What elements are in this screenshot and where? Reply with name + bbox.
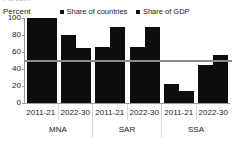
legend-swatch-icon [136,10,140,14]
bar [179,91,194,103]
legend-label: Share of GDP [143,8,190,16]
y-axis-tick-mark [22,69,24,70]
legend-item-share-of-gdp: Share of GDP [136,8,189,16]
bar [198,65,213,103]
y-axis-tick-label: 20 [12,82,21,90]
period-label: 2022-30 [59,104,94,120]
legend-item-share-of-countries: Share of countries [60,8,127,16]
legend-label: Share of countries [67,8,128,16]
y-axis-tick-label: 40 [12,65,21,73]
region-label: MNA [24,120,93,138]
bar [110,27,125,104]
bar [145,27,160,104]
period-label: 2011-21 [162,104,197,120]
chart-figure: Percent Percent Share of countries Share… [0,0,234,151]
y-axis-tick-label: 60 [12,48,21,56]
y-axis-tick-label: 0 [17,99,21,107]
y-axis-tick-mark [22,52,24,53]
bar [130,47,145,103]
bar [76,48,91,103]
bar [213,55,228,103]
y-axis-tick-mark [22,18,24,19]
plot-area: 100806040200 [24,18,230,104]
reference-line [24,60,232,62]
legend-swatch-icon [60,10,64,14]
period-label: 2022-30 [197,104,231,120]
region-label: SAR [93,120,162,138]
period-axis-labels: 2011-212022-302011-212022-302011-212022-… [24,104,230,120]
bar [61,35,76,103]
period-label: 2011-21 [93,104,128,120]
period-label: 2022-30 [128,104,163,120]
region-label: SSA [162,120,230,138]
bar [164,84,179,103]
y-axis-tick-mark [22,35,24,36]
chart-legend: Share of countries Share of GDP [60,8,190,16]
region-axis-labels: MNASARSSA [24,120,230,138]
y-axis-tick-label: 80 [12,31,21,39]
cropped-title-remnant: Percent [3,0,30,2]
period-label: 2011-21 [24,104,59,120]
bar [95,47,110,103]
y-axis-tick-label: 100 [8,14,21,22]
y-axis-tick-mark [22,86,24,87]
